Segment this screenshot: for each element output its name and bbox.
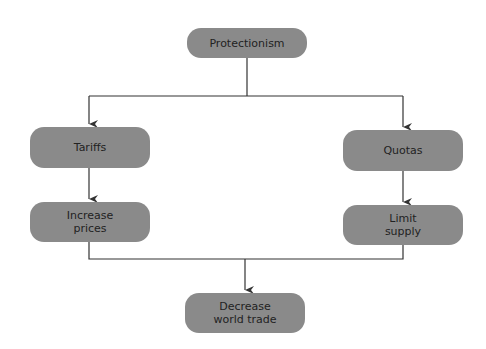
node-increase-prices: Increase prices	[30, 202, 150, 242]
node-decrease-world-trade: Decrease world trade	[185, 293, 305, 333]
node-label: Tariffs	[74, 141, 107, 154]
node-protectionism: Protectionism	[187, 28, 307, 58]
node-label: Decrease world trade	[213, 300, 276, 326]
node-label: Limit supply	[385, 212, 421, 238]
node-tariffs: Tariffs	[30, 127, 150, 168]
node-label: Increase prices	[67, 209, 114, 235]
node-limit-supply: Limit supply	[343, 205, 463, 245]
node-label: Quotas	[383, 144, 422, 157]
node-label: Protectionism	[209, 37, 284, 50]
node-quotas: Quotas	[343, 130, 463, 171]
